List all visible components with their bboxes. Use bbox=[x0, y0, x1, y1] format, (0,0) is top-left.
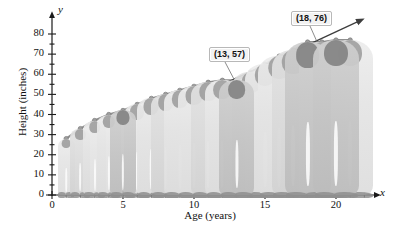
y-tick-label-10: 10 bbox=[8, 168, 44, 179]
silhouette-leg-gap bbox=[235, 140, 238, 188]
y-axis-letter: y bbox=[58, 3, 63, 15]
silhouette-shoe-left bbox=[221, 192, 237, 198]
silhouette-head bbox=[62, 139, 71, 148]
silhouette-leg-gap bbox=[65, 168, 67, 192]
silhouette-shoe-right bbox=[334, 192, 358, 198]
x-tick-label-0: 0 bbox=[32, 199, 72, 210]
silhouette-head bbox=[228, 80, 246, 99]
person-silhouette-age-13 bbox=[219, 80, 253, 195]
silhouette-shoe-right bbox=[122, 192, 135, 198]
silhouette-head bbox=[324, 40, 348, 66]
y-axis-title: Height (inches) bbox=[16, 42, 28, 162]
annotation-point-a: (13, 57) bbox=[209, 47, 250, 62]
x-tick-label-5: 5 bbox=[103, 199, 143, 210]
x-axis-title: Age (years) bbox=[150, 209, 270, 221]
x-axis-letter: x bbox=[380, 186, 385, 198]
silhouette-leg-gap bbox=[94, 159, 96, 190]
x-tick-label-20: 20 bbox=[316, 199, 356, 210]
person-silhouette-age-20 bbox=[313, 40, 359, 195]
y-tick-label-80: 80 bbox=[8, 27, 44, 38]
silhouette-leg-gap bbox=[306, 122, 310, 186]
person-silhouette-age-5 bbox=[110, 110, 135, 195]
silhouette-head bbox=[116, 110, 129, 124]
silhouette-leg-gap bbox=[334, 121, 338, 186]
silhouette-shoe-left bbox=[286, 192, 307, 198]
silhouette-leg-gap bbox=[80, 163, 82, 191]
silhouette-shoe-right bbox=[235, 192, 253, 198]
y-tick-label-0: 0 bbox=[8, 188, 44, 199]
growth-chart-figure: 01020304050607080 05101520 y x Height (i… bbox=[0, 0, 407, 231]
y-axis bbox=[48, 18, 56, 196]
silhouette-shoe-left bbox=[315, 192, 336, 198]
annotation-point-b: (18, 76) bbox=[291, 11, 332, 26]
